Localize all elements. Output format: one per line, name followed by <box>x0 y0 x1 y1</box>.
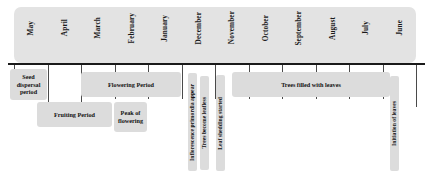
month-label-text: January <box>161 15 168 42</box>
phenology-timeline-chart: MayAprilMarchFebruaryJanuaryDecemberNove… <box>0 0 430 179</box>
month-label-september: September <box>282 0 316 56</box>
month-label-text: April <box>61 19 68 36</box>
month-label-text: August <box>329 17 336 40</box>
timeline-axis <box>8 63 425 65</box>
month-label-january: January <box>148 0 182 56</box>
event-box-label: Initiation of leaves <box>392 101 398 146</box>
event-box-label: Inflorescence primordia appear <box>190 84 196 161</box>
month-label-february: February <box>115 0 149 56</box>
month-label-march: March <box>81 0 115 56</box>
month-label-august: August <box>316 0 350 56</box>
phase-box-flowering-period: Flowering Period <box>81 72 181 97</box>
event-box-label: Leaf shedding started <box>218 97 224 150</box>
month-label-october: October <box>249 0 283 56</box>
month-label-april: April <box>48 0 82 56</box>
month-label-text: March <box>94 17 101 38</box>
month-label-text: October <box>262 15 269 41</box>
month-label-text: December <box>195 12 202 44</box>
month-label-june: June <box>383 0 417 56</box>
phase-box-trees-filled-with-leaves: Trees filled with leaves <box>232 72 390 97</box>
month-label-text: July <box>362 21 369 35</box>
month-label-november: November <box>215 0 249 56</box>
month-label-text: May <box>27 21 34 35</box>
month-label-text: June <box>396 20 403 35</box>
phase-box-seed-dispersal-period: Seed dispersal period <box>10 69 47 100</box>
event-box-label: Trees become leafless <box>202 97 208 149</box>
phase-box-peak-of-flowering: Peak of flowering <box>114 102 147 132</box>
month-label-text: September <box>295 11 302 46</box>
month-label-text: November <box>228 11 235 44</box>
event-box-trees-become-leafless: Trees become leafless <box>200 76 209 170</box>
axis-tick <box>48 65 49 107</box>
month-label-july: July <box>349 0 383 56</box>
event-box-initiation-of-leaves: Initiation of leaves <box>390 76 399 171</box>
phase-box-fruiting-period: Fruiting Period <box>37 102 112 127</box>
month-label-text: February <box>128 13 135 43</box>
event-box-inflorescence-primordia-appear: Inflorescence primordia appear <box>188 73 197 171</box>
month-label-may: May <box>14 0 48 56</box>
event-box-leaf-shedding-started: Leaf shedding started <box>216 75 225 171</box>
axis-tick <box>182 65 183 99</box>
month-label-december: December <box>182 0 216 56</box>
axis-tick <box>416 65 417 107</box>
